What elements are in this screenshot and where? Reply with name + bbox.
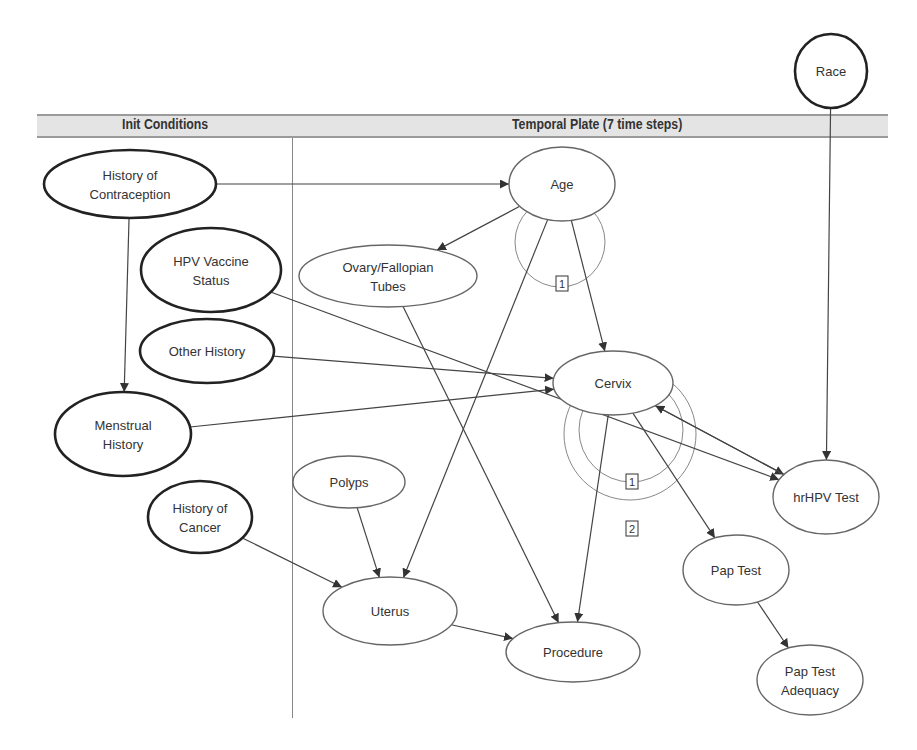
- node-label: Race: [816, 64, 846, 79]
- node-label: Ovary/Fallopian: [342, 260, 433, 275]
- node-label: Cervix: [595, 376, 632, 391]
- node-label: Uterus: [371, 604, 410, 619]
- node-pap-test-adequacy[interactable]: Pap TestAdequacy: [757, 645, 863, 715]
- node-other-history[interactable]: Other History: [140, 319, 274, 383]
- edge-age-to-cervix: [571, 220, 605, 351]
- node-label: HPV Vaccine: [173, 254, 249, 269]
- node-hpv-vaccine-status[interactable]: HPV VaccineStatus: [141, 228, 281, 312]
- nodes: RaceHistory ofContraceptionHPV VaccineSt…: [44, 34, 879, 715]
- node-label: Age: [550, 177, 573, 192]
- node-age[interactable]: Age: [509, 147, 615, 221]
- node-label: Other History: [169, 344, 246, 359]
- node-menstrual-history[interactable]: MenstrualHistory: [55, 392, 191, 476]
- node-ovary-fallopian-tubes[interactable]: Ovary/FallopianTubes: [299, 245, 477, 307]
- edge-ovary-fallopian-tubes-to-procedure: [403, 307, 559, 623]
- node-label: Pap Test: [785, 664, 836, 679]
- edge-history-of-contraception-to-menstrual-history: [124, 218, 129, 392]
- node-label: Status: [193, 273, 230, 288]
- network-diagram: 112 RaceHistory ofContraceptionHPV Vacci…: [0, 0, 917, 750]
- edge-cervix-to-pap-test: [633, 413, 715, 538]
- loop-order-badge: 1: [626, 474, 638, 489]
- edge-race-to-hrhpv-test: [826, 108, 830, 460]
- svg-text:1: 1: [559, 278, 565, 290]
- node-label: History of: [173, 501, 228, 516]
- node-label: Pap Test: [711, 563, 762, 578]
- node-label: Polyps: [329, 475, 369, 490]
- node-label: Procedure: [543, 645, 603, 660]
- edge-polyps-to-uterus: [357, 508, 379, 578]
- node-label: hrHPV Test: [793, 490, 859, 505]
- edge-uterus-to-procedure: [451, 625, 513, 639]
- node-polyps[interactable]: Polyps: [293, 456, 405, 508]
- node-label: Tubes: [370, 279, 406, 294]
- node-cervix[interactable]: Cervix: [553, 351, 673, 415]
- edge-pap-test-to-pap-test-adequacy: [758, 602, 789, 648]
- edge-cervix-to-procedure: [577, 415, 608, 622]
- node-label: History: [103, 437, 144, 452]
- node-label: Menstrual: [94, 418, 151, 433]
- svg-text:1: 1: [629, 476, 635, 488]
- node-label: History of: [103, 168, 158, 183]
- loop-order-badge: 2: [626, 521, 638, 536]
- edge-hrhpv-test-to-cervix: [655, 406, 784, 475]
- node-hrhpv-test[interactable]: hrHPV Test: [773, 460, 879, 534]
- edge-other-history-to-cervix: [273, 356, 554, 378]
- node-label: Adequacy: [781, 683, 839, 698]
- node-race[interactable]: Race: [795, 34, 867, 108]
- node-pap-test[interactable]: Pap Test: [683, 535, 789, 605]
- edge-hpv-vaccine-status-to-hrhpv-test: [271, 292, 780, 480]
- node-uterus[interactable]: Uterus: [323, 577, 457, 645]
- edge-age-to-ovary-fallopian-tubes: [437, 206, 520, 250]
- node-label: Cancer: [179, 520, 222, 535]
- edge-menstrual-history-to-cervix: [190, 389, 554, 427]
- node-procedure[interactable]: Procedure: [506, 622, 640, 682]
- edge-history-of-cancer-to-uterus: [242, 538, 342, 587]
- svg-text:2: 2: [629, 523, 635, 535]
- loop-order-badge: 1: [556, 276, 568, 291]
- node-label: Contraception: [90, 187, 171, 202]
- node-history-of-contraception[interactable]: History ofContraception: [44, 150, 216, 218]
- node-history-of-cancer[interactable]: History ofCancer: [148, 481, 252, 553]
